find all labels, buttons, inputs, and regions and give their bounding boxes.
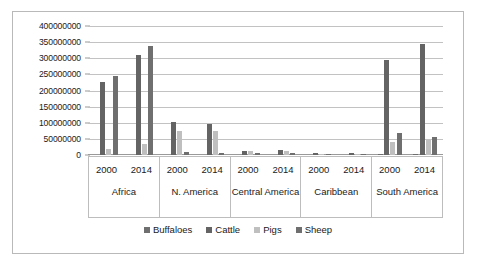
legend-item[interactable]: Pigs [254,224,281,235]
x-axis-category-cell: 20002014Caribbean [301,156,372,218]
y-axis-tick-label: 300000000 [39,53,81,63]
y-axis-tick-label: 100000000 [39,118,81,128]
bar-pigs [213,131,218,155]
bar-cattle [313,153,318,155]
bar-subgroup-year [337,26,373,155]
bar-buffaloes [413,154,418,155]
x-axis-category-cell: 20002014Central America [231,156,302,218]
bar-sheep [219,153,224,155]
bar-pigs [142,144,147,155]
y-axis-labels: 0500000001000000001500000002000000002500… [17,26,85,155]
legend-label: Buffaloes [153,224,192,235]
legend-swatch-icon [254,227,260,233]
bar-cattle [278,150,283,155]
x-axis-year-label: 2014 [336,157,371,182]
bar-group [301,26,372,155]
x-axis-group-label: Africa [89,182,159,217]
bar-subgroup-year [408,26,444,155]
x-axis-year-row: 20002014 [160,157,230,182]
bar-pigs [390,142,395,155]
x-axis-year-label: 2000 [231,157,266,182]
x-axis-year-label: 2014 [124,157,159,182]
bar-cattle [349,153,354,155]
y-axis-tick-label: 250000000 [39,69,81,79]
x-axis-year-row: 20002014 [301,157,371,182]
legend-label: Sheep [305,224,332,235]
x-axis-year-label: 2014 [407,157,442,182]
bar-sheep [361,154,366,155]
x-axis-year-row: 20002014 [231,157,301,182]
y-axis-tick-label: 350000000 [39,37,81,47]
bar-cattle [171,122,176,155]
bar-subgroup-year [266,26,302,155]
y-axis-tick-label: 200000000 [39,86,81,96]
bar-cattle [207,124,212,155]
bar-subgroup-year [230,26,266,155]
bar-subgroup-year [159,26,195,155]
chart-legend: BuffaloesCattlePigsSheep [13,224,463,235]
x-axis-year-label: 2000 [89,157,124,182]
bar-subgroup-year [88,26,124,155]
y-axis-tick-label: 400000000 [39,21,81,31]
legend-item[interactable]: Buffaloes [144,224,192,235]
bar-pigs [426,140,431,155]
bar-sheep [432,137,437,155]
x-axis-year-label: 2000 [372,157,407,182]
legend-swatch-icon [296,227,302,233]
x-axis-year-label: 2014 [195,157,230,182]
bar-subgroup-year [124,26,160,155]
bar-subgroup-year [195,26,231,155]
x-axis-year-label: 2000 [160,157,195,182]
x-axis-category-cell: 20002014South America [372,156,443,218]
bar-cattle [136,55,141,155]
bar-cattle [100,82,105,155]
bar-pigs [284,151,289,155]
x-axis-year-row: 20002014 [89,157,159,182]
plot-area [88,26,443,155]
x-axis-category-cell: 20002014Africa [88,156,160,218]
x-axis-group-label: Caribbean [301,182,371,217]
bar-pigs [106,149,111,155]
bar-pigs [319,154,324,155]
bar-sheep [255,153,260,155]
x-axis-category-cell: 20002014N. America [160,156,231,218]
legend-item[interactable]: Sheep [296,224,332,235]
bar-sheep [113,76,118,155]
bar-group [230,26,301,155]
bar-pigs [177,131,182,155]
x-axis-year-label: 2000 [301,157,336,182]
legend-label: Cattle [215,224,240,235]
bar-buffaloes [378,154,383,155]
bar-sheep [326,154,331,155]
bar-subgroup-year [372,26,408,155]
bar-pigs [248,151,253,155]
bar-group [372,26,443,155]
legend-label: Pigs [263,224,281,235]
bar-subgroup-year [301,26,337,155]
x-axis-year-row: 20002014 [372,157,442,182]
bar-group [88,26,159,155]
y-axis-tick-label: 150000000 [39,102,81,112]
x-axis-category-table: 20002014Africa20002014N. America20002014… [88,156,443,218]
bar-cattle [420,44,425,155]
y-axis-tick-label: 0 [76,150,81,160]
bar-sheep [148,46,153,155]
x-axis-year-label: 2014 [266,157,301,182]
bar-cattle [384,60,389,155]
legend-swatch-icon [206,227,212,233]
bar-sheep [184,152,189,155]
bar-pigs [355,154,360,155]
bar-sheep [397,133,402,155]
legend-swatch-icon [144,227,150,233]
y-axis-tick-label: 50000000 [44,134,81,144]
bar-group [159,26,230,155]
bar-sheep [290,153,295,155]
x-axis-group-label: South America [372,182,442,217]
bar-cattle [242,151,247,155]
x-axis-group-label: Central America [231,182,301,217]
chart-frame: 0500000001000000001500000002000000002500… [12,11,464,254]
legend-item[interactable]: Cattle [206,224,240,235]
x-axis-group-label: N. America [160,182,230,217]
